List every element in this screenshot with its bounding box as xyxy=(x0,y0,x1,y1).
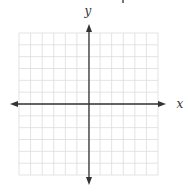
y-axis-label: y xyxy=(84,4,92,18)
clipped-text-fragment xyxy=(122,0,124,3)
arrow-down-icon xyxy=(86,177,92,185)
coordinate-plane: y x xyxy=(0,0,190,192)
axes xyxy=(10,24,166,185)
arrow-right-icon xyxy=(158,101,166,107)
arrow-left-icon xyxy=(10,101,18,107)
arrow-up-icon xyxy=(86,24,92,32)
x-axis-label: x xyxy=(177,97,184,111)
